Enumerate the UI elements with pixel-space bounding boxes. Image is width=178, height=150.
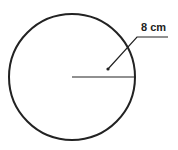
circle-diagram: 8 cm bbox=[0, 0, 178, 150]
radius-label: 8 cm bbox=[141, 21, 166, 33]
leader-line bbox=[108, 37, 168, 69]
